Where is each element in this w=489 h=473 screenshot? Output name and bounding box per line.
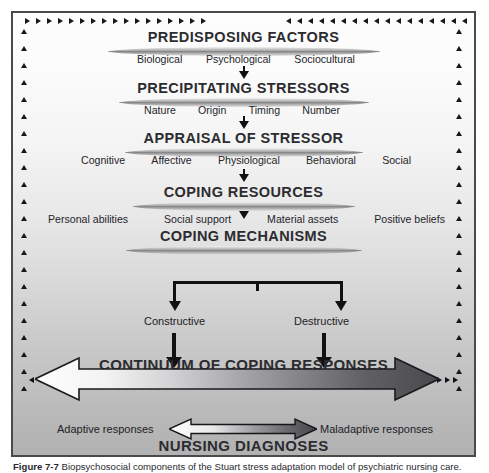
border-triangle-marker xyxy=(21,284,27,289)
figure-diagram-frame: PREDISPOSING FACTORS Biological Psycholo… xyxy=(11,11,476,457)
border-triangle-marker xyxy=(124,18,129,24)
border-triangle-marker xyxy=(385,18,390,24)
border-triangle-marker xyxy=(168,18,173,24)
border-triangle-marker xyxy=(456,165,462,170)
border-triangle-marker xyxy=(286,18,291,24)
border-triangle-marker xyxy=(179,18,184,24)
figure-caption-text: Biopsychosocial components of the Stuart… xyxy=(62,461,462,472)
border-triangle-marker xyxy=(21,267,27,272)
heading-appraisal-of-stressor: APPRAISAL OF STRESSOR xyxy=(13,131,474,157)
row-predisposing-factors: Biological Psychological Sociocultural xyxy=(137,53,355,65)
label-social: Social xyxy=(382,154,411,166)
continuum-double-arrow xyxy=(35,356,439,402)
border-triangle-marker xyxy=(456,386,462,391)
connector-arrow-to-precipitating-stressors xyxy=(239,71,249,79)
border-triangle-marker xyxy=(113,18,118,24)
label-origin: Origin xyxy=(198,104,226,116)
label-sociocultural: Sociocultural xyxy=(294,53,355,65)
figure-caption-label: Figure 7-7 xyxy=(13,461,59,472)
label-physiological: Physiological xyxy=(218,154,280,166)
branch-connector-coping-mechanisms xyxy=(173,281,343,311)
border-triangle-marker xyxy=(21,165,27,170)
border-triangle-marker xyxy=(363,18,368,24)
label-adaptive-responses: Adaptive responses xyxy=(57,423,154,435)
branch-leg-right xyxy=(340,281,343,303)
label-positive-beliefs: Positive beliefs xyxy=(374,213,445,225)
label-biological: Biological xyxy=(137,53,182,65)
label-personal-abilities: Personal abilities xyxy=(48,213,128,225)
border-triangle-marker xyxy=(25,18,30,24)
heading-label: PREDISPOSING FACTORS xyxy=(13,30,474,45)
border-triangle-marker xyxy=(396,18,401,24)
border-triangle-marker xyxy=(418,18,423,24)
border-triangle-marker xyxy=(58,18,63,24)
heading-nursing-diagnoses: NURSING DIAGNOSES xyxy=(13,438,474,453)
border-triangle-marker xyxy=(21,216,27,221)
heading-divider-lens xyxy=(126,246,362,255)
border-triangle-marker xyxy=(451,18,456,24)
border-triangle-marker xyxy=(80,18,85,24)
border-triangle-marker xyxy=(21,318,27,323)
border-triangle-marker xyxy=(319,18,324,24)
branch-input-stem xyxy=(256,281,259,291)
border-triangle-marker xyxy=(36,18,41,24)
label-constructive: Constructive xyxy=(144,315,205,327)
label-timing: Timing xyxy=(249,104,280,116)
border-triangle-marker xyxy=(341,18,346,24)
border-triangle-marker xyxy=(456,301,462,306)
border-triangle-marker xyxy=(69,18,74,24)
label-material-assets: Material assets xyxy=(267,213,338,225)
label-destructive: Destructive xyxy=(294,315,349,327)
row-appraisal-of-stressor: Cognitive Affective Physiological Behavi… xyxy=(81,154,411,166)
label-maladaptive-responses: Maladaptive responses xyxy=(320,423,433,435)
heading-label: COPING RESOURCES xyxy=(13,185,474,200)
border-triangle-marker xyxy=(308,18,313,24)
label-behavioral: Behavioral xyxy=(306,154,356,166)
heading-precipitating-stressors: PRECIPITATING STRESSORS xyxy=(13,81,474,107)
border-triangle-marker xyxy=(456,284,462,289)
label-psychological: Psychological xyxy=(206,53,271,65)
heading-label: APPRAISAL OF STRESSOR xyxy=(13,131,474,146)
border-triangle-marker xyxy=(135,18,140,24)
label-social-support: Social support xyxy=(164,213,231,225)
border-triangle-marker xyxy=(456,114,462,119)
heading-label: NURSING DIAGNOSES xyxy=(13,438,474,453)
border-triangle-marker xyxy=(374,18,379,24)
border-triangle-marker xyxy=(462,18,467,24)
border-triangle-marker xyxy=(456,63,462,68)
border-triangle-marker xyxy=(456,318,462,323)
label-nature: Nature xyxy=(144,104,176,116)
border-triangle-marker xyxy=(21,114,27,119)
label-number: Number xyxy=(302,104,340,116)
border-triangle-marker xyxy=(21,386,27,391)
branch-leg-left xyxy=(173,281,176,303)
border-triangle-marker xyxy=(47,18,52,24)
branch-arrowhead-right xyxy=(335,301,347,311)
border-triangle-marker xyxy=(21,301,27,306)
row-precipitating-stressors: Nature Origin Timing Number xyxy=(144,104,340,116)
border-triangle-marker xyxy=(21,63,27,68)
connector-arrow-to-coping-mechanisms xyxy=(239,211,249,219)
heading-coping-resources: COPING RESOURCES xyxy=(13,185,474,211)
border-triangle-marker xyxy=(407,18,412,24)
border-triangle-marker xyxy=(157,18,162,24)
border-triangle-marker xyxy=(330,18,335,24)
border-triangle-marker xyxy=(429,18,434,24)
border-triangle-marker xyxy=(21,335,27,340)
border-triangle-marker xyxy=(456,335,462,340)
border-triangle-marker xyxy=(456,267,462,272)
heading-label: COPING MECHANISMS xyxy=(13,229,474,244)
label-affective: Affective xyxy=(151,154,191,166)
border-triangle-marker xyxy=(352,18,357,24)
border-triangle-marker xyxy=(201,18,206,24)
connector-arrow-to-appraisal xyxy=(239,121,249,129)
label-cognitive: Cognitive xyxy=(81,154,125,166)
border-triangle-marker xyxy=(456,216,462,221)
heading-predisposing-factors: PREDISPOSING FACTORS xyxy=(13,30,474,56)
border-triangle-marker xyxy=(146,18,151,24)
heading-divider-lens xyxy=(133,202,355,211)
border-triangle-marker xyxy=(440,18,445,24)
heading-coping-mechanisms: COPING MECHANISMS xyxy=(13,229,474,255)
border-triangle-marker xyxy=(297,18,302,24)
connector-arrow-to-coping-resources xyxy=(239,174,249,182)
